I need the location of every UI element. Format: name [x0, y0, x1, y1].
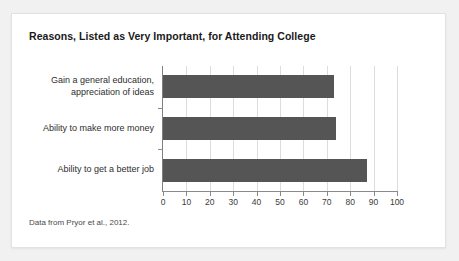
- bar: [163, 117, 336, 140]
- x-axis-tick-label: 90: [369, 197, 378, 207]
- x-axis-tick-label: 50: [275, 197, 284, 207]
- source-note: Data from Pryor et al., 2012.: [29, 218, 130, 227]
- y-axis-tick: [158, 108, 163, 109]
- bar: [163, 159, 367, 182]
- plot-area: Gain a general education, appreciation o…: [163, 66, 397, 191]
- x-axis-tick-label: 40: [252, 197, 261, 207]
- x-axis-tick-label: 30: [228, 197, 237, 207]
- gridline: [374, 66, 375, 191]
- x-axis-tick-label: 70: [322, 197, 331, 207]
- x-axis-tick-label: 100: [390, 197, 404, 207]
- x-axis-tick-label: 10: [182, 197, 191, 207]
- category-label: Gain a general education, appreciation o…: [4, 75, 154, 98]
- chart-title: Reasons, Listed as Very Important, for A…: [29, 30, 316, 42]
- y-axis-tick: [158, 149, 163, 150]
- x-axis-tick-label: 20: [205, 197, 214, 207]
- category-label: Ability to get a better job: [4, 164, 154, 176]
- x-axis-tick: [397, 191, 398, 196]
- bar: [163, 75, 334, 98]
- x-axis-tick-label: 80: [345, 197, 354, 207]
- x-axis-tick-label: 60: [299, 197, 308, 207]
- page-background: Reasons, Listed as Very Important, for A…: [0, 0, 459, 261]
- chart-card: Reasons, Listed as Very Important, for A…: [11, 13, 446, 248]
- gridline: [397, 66, 398, 191]
- x-axis-tick-labels: 0102030405060708090100: [163, 191, 397, 207]
- category-label: Ability to make more money: [4, 123, 154, 135]
- x-axis-tick-label: 0: [161, 197, 166, 207]
